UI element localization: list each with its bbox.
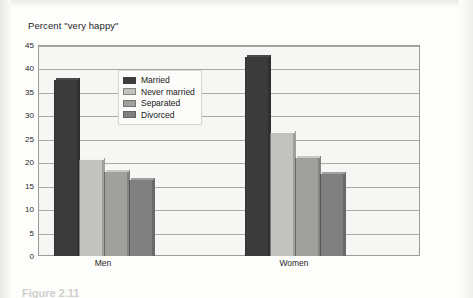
legend-swatch-icon [123, 100, 136, 107]
legend-item-label: Never married [141, 87, 195, 97]
bar [104, 172, 127, 256]
y-axis-tick-label: 10 [8, 205, 34, 214]
bar [295, 158, 318, 256]
legend-swatch-icon [123, 111, 136, 118]
legend-item-label: Divorced [141, 110, 175, 120]
bar-top-highlight [81, 158, 104, 160]
bar-face [270, 133, 294, 256]
legend-item: Married [123, 75, 195, 86]
scan-edge-top [0, 0, 473, 7]
bar-face [54, 80, 78, 256]
legend-swatch-icon [123, 77, 136, 84]
bar-face [320, 174, 344, 256]
bar-side-shadow [152, 178, 155, 256]
bar-top-highlight [297, 156, 320, 158]
x-axis-category-labels: MenWomen [38, 258, 420, 274]
y-axis-tick-label: 5 [8, 228, 34, 237]
bar-top-highlight [247, 55, 270, 57]
legend-item-label: Married [141, 75, 170, 85]
bars-layer [38, 45, 420, 256]
y-axis-tick-label: 45 [8, 41, 34, 50]
y-axis-tick-label: 15 [8, 181, 34, 190]
bar [129, 180, 152, 256]
bar-top-highlight [106, 170, 129, 172]
y-axis-tick-label: 25 [8, 134, 34, 143]
bar-face [245, 57, 269, 256]
bar [245, 57, 268, 256]
x-axis-category-label: Men [95, 258, 112, 268]
legend-item-label: Separated [141, 98, 180, 108]
y-axis-tick-label: 35 [8, 87, 34, 96]
y-axis-tick-label: 0 [8, 252, 34, 261]
y-axis-tick-label: 20 [8, 158, 34, 167]
bar-face [295, 158, 319, 256]
bar-side-shadow [343, 172, 346, 256]
legend-item: Never married [123, 86, 195, 97]
bar [79, 160, 102, 256]
legend-item: Divorced [123, 109, 195, 120]
figure-caption: Figure 2.11 [22, 287, 79, 298]
legend-item: Separated [123, 98, 195, 109]
chart-title: Percent "very happy" [28, 20, 119, 31]
chart-legend: MarriedNever marriedSeparatedDivorced [118, 70, 202, 125]
page-background: Percent "very happy" 051015202530354045 … [0, 0, 473, 298]
legend-swatch-icon [123, 88, 136, 95]
bar-top-highlight [322, 172, 345, 174]
y-axis-tick-label: 30 [8, 111, 34, 120]
y-axis: 051015202530354045 [6, 45, 34, 256]
bar [270, 133, 293, 256]
bar-face [129, 180, 153, 256]
x-axis-category-label: Women [279, 258, 308, 268]
bar-top-highlight [56, 78, 79, 80]
scan-edge-right [459, 0, 473, 298]
y-axis-tick-label: 40 [8, 64, 34, 73]
bar [320, 174, 343, 256]
bar-face [79, 160, 103, 256]
bar [54, 80, 77, 256]
bar-top-highlight [272, 131, 295, 133]
bar-top-highlight [131, 178, 154, 180]
bar-face [104, 172, 128, 256]
